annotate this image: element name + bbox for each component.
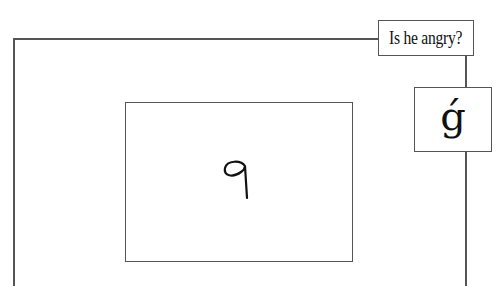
symbol-glyph: ǵ: [440, 96, 466, 136]
top-connector-line: [13, 38, 379, 40]
stimulus-box: 9: [125, 102, 353, 262]
handwritten-digit-nine: [219, 152, 259, 212]
symbol-box: ǵ: [414, 87, 492, 152]
left-frame-line: [13, 38, 15, 286]
question-label-box: Is he angry?: [378, 20, 474, 56]
question-label: Is he angry?: [389, 27, 462, 49]
